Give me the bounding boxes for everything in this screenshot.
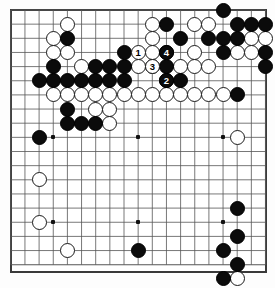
- white-stone[interactable]: [145, 17, 160, 32]
- white-stone[interactable]: [117, 87, 132, 102]
- go-diagram-page: 1234: [0, 0, 275, 288]
- black-stone[interactable]: [117, 73, 132, 88]
- star-point: [136, 220, 140, 224]
- black-stone[interactable]: [32, 130, 47, 145]
- white-stone[interactable]: [88, 102, 103, 117]
- black-stone[interactable]: [60, 116, 75, 131]
- black-stone[interactable]: [32, 73, 47, 88]
- star-point: [221, 135, 225, 139]
- white-stone[interactable]: [258, 31, 273, 46]
- star-point: [136, 135, 140, 139]
- black-stone[interactable]: [230, 17, 245, 32]
- black-stone[interactable]: [46, 73, 61, 88]
- black-stone[interactable]: [46, 59, 61, 74]
- black-stone[interactable]: [258, 45, 273, 60]
- black-stone[interactable]: [230, 87, 245, 102]
- white-stone[interactable]: [145, 45, 160, 60]
- white-stone[interactable]: [230, 271, 245, 286]
- black-stone[interactable]: [230, 229, 245, 244]
- white-stone[interactable]: [244, 31, 259, 46]
- black-stone[interactable]: [60, 31, 75, 46]
- white-stone[interactable]: [46, 31, 61, 46]
- white-stone[interactable]: [102, 116, 117, 131]
- white-stone[interactable]: [102, 102, 117, 117]
- star-point: [51, 135, 55, 139]
- black-stone[interactable]: [230, 257, 245, 272]
- white-stone[interactable]: [244, 45, 259, 60]
- white-stone[interactable]: [46, 45, 61, 60]
- black-stone[interactable]: [131, 243, 146, 258]
- black-stone[interactable]: [258, 59, 273, 74]
- move-number-label: 1: [132, 46, 145, 59]
- star-point: [221, 220, 225, 224]
- black-stone[interactable]: [60, 102, 75, 117]
- white-stone[interactable]: [216, 87, 231, 102]
- numbered-move-stone-4[interactable]: 4: [159, 45, 174, 60]
- white-stone[interactable]: [131, 59, 146, 74]
- black-stone[interactable]: [230, 31, 245, 46]
- numbered-move-stone-3[interactable]: 3: [145, 59, 160, 74]
- black-stone[interactable]: [159, 17, 174, 32]
- white-stone[interactable]: [131, 87, 146, 102]
- move-number-label: 4: [160, 46, 173, 59]
- black-stone[interactable]: [88, 116, 103, 131]
- numbered-move-stone-1[interactable]: 1: [131, 45, 146, 60]
- numbered-move-stone-2[interactable]: 2: [159, 73, 174, 88]
- black-stone[interactable]: [244, 17, 259, 32]
- black-stone[interactable]: [258, 17, 273, 32]
- black-stone[interactable]: [216, 271, 231, 286]
- white-stone[interactable]: [201, 17, 216, 32]
- black-stone[interactable]: [216, 243, 231, 258]
- white-stone[interactable]: [187, 17, 202, 32]
- black-stone[interactable]: [173, 31, 188, 46]
- star-point: [51, 220, 55, 224]
- black-stone[interactable]: [117, 59, 132, 74]
- white-stone[interactable]: [60, 243, 75, 258]
- black-stone[interactable]: [216, 45, 231, 60]
- black-stone[interactable]: [216, 31, 231, 46]
- white-stone[interactable]: [230, 130, 245, 145]
- black-stone[interactable]: [159, 59, 174, 74]
- black-stone[interactable]: [216, 3, 231, 18]
- black-stone[interactable]: [74, 116, 89, 131]
- white-stone[interactable]: [145, 31, 160, 46]
- white-stone[interactable]: [230, 45, 245, 60]
- white-stone[interactable]: [32, 215, 47, 230]
- white-stone[interactable]: [32, 172, 47, 187]
- move-number-label: 2: [160, 74, 173, 87]
- white-stone[interactable]: [60, 45, 75, 60]
- move-number-label: 3: [146, 60, 159, 73]
- black-stone[interactable]: [117, 45, 132, 60]
- white-stone[interactable]: [60, 17, 75, 32]
- black-stone[interactable]: [230, 201, 245, 216]
